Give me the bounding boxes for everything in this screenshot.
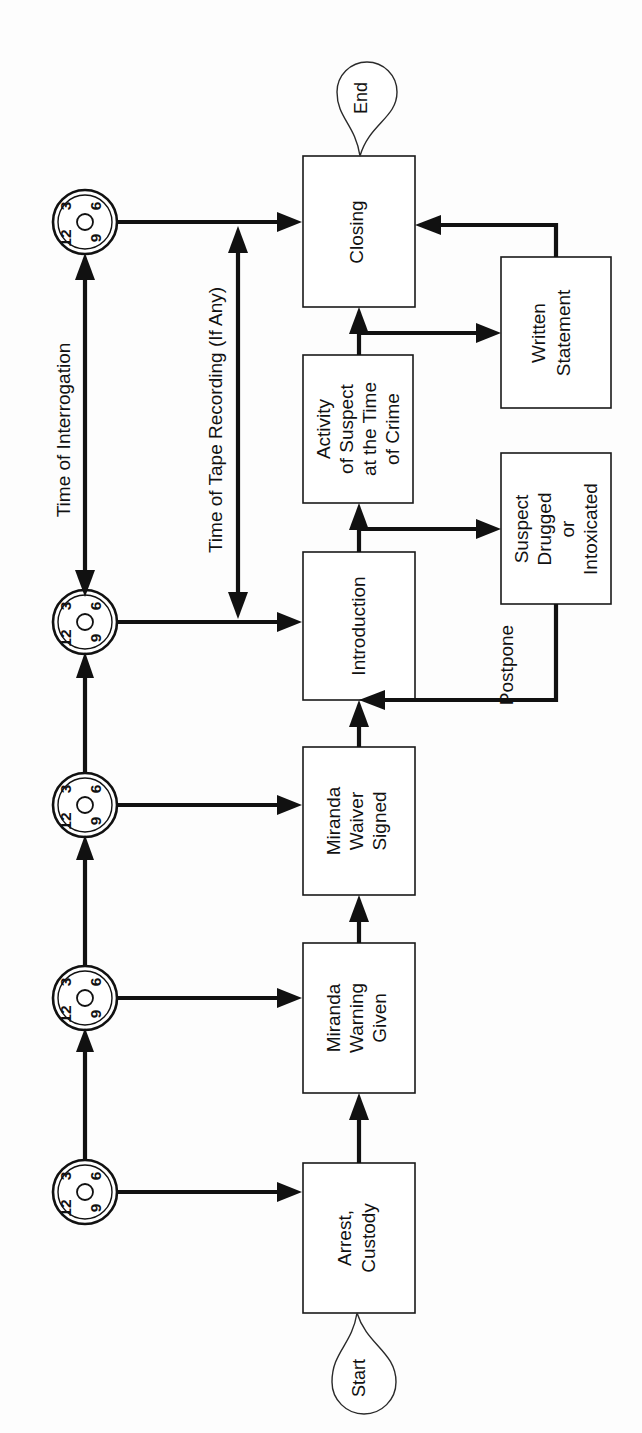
connector-clock5-to-closing	[117, 212, 302, 232]
clock-face-3-a: 3	[57, 1171, 74, 1180]
connector-introduction-to-suspect-drugged	[359, 519, 501, 539]
clock-face-3-b: 3	[57, 977, 74, 986]
connector-clock3-to-miranda-waiver	[117, 795, 302, 815]
terminator-start-label: Start	[349, 1359, 369, 1397]
connector-miranda-waiver-to-introduction	[349, 700, 369, 747]
node-activity-of-suspect[interactable]: Activity of Suspect at the Time of Crime	[303, 355, 413, 503]
clock-face-9-a: 9	[87, 1203, 104, 1212]
clock-face-9-d: 9	[87, 633, 104, 642]
clock-face-6-c: 6	[87, 784, 104, 793]
node-written-statement[interactable]: Written Statement	[501, 257, 611, 408]
node-miranda-waiver-signed[interactable]: Miranda Waiver Signed	[303, 747, 415, 895]
node-arrest-custody[interactable]: Arrest, Custody	[303, 1163, 415, 1313]
node-miranda-warning-given-line-2: Warning	[346, 983, 367, 1053]
clock-face-6-d: 6	[87, 601, 104, 610]
node-miranda-waiver-signed-line-2: Waiver	[346, 791, 367, 850]
connector-clock2-to-clock3	[76, 835, 94, 966]
node-miranda-warning-given-line-3: Given	[369, 993, 390, 1043]
node-suspect-drugged-line-3: or	[557, 520, 578, 538]
connector-time-of-tape-recording: Time of Tape Recording (If Any)	[205, 226, 248, 619]
node-written-statement-line-2: Statement	[553, 289, 574, 376]
clock-icon-introduction: 12 3 6 9	[53, 590, 117, 654]
node-miranda-waiver-signed-line-3: Signed	[369, 791, 390, 850]
node-suspect-drugged-line-1: Suspect	[511, 494, 532, 563]
node-miranda-warning-given-line-1: Miranda	[323, 983, 344, 1052]
node-written-statement-line-1: Written	[528, 303, 549, 363]
flowchart-svg: Arrest, Custody Miranda Warning Given Mi…	[0, 0, 642, 1433]
terminator-end: End	[337, 62, 397, 156]
clock-face-12-a: 12	[57, 1199, 74, 1216]
connector-miranda-warning-to-waiver	[349, 895, 369, 943]
node-closing-label: Closing	[346, 200, 367, 263]
connector-clock1-to-clock2	[76, 1028, 94, 1160]
connector-time-of-interrogation: Time of Interrogation	[53, 253, 95, 597]
node-activity-line-3: at the Time	[359, 382, 380, 476]
node-introduction-label: Introduction	[348, 576, 369, 675]
connector-arrest-to-miranda-warning	[349, 1093, 369, 1163]
clock-face-9-e: 9	[87, 233, 104, 242]
connector-activity-to-written-statement	[359, 323, 501, 343]
node-miranda-warning-given[interactable]: Miranda Warning Given	[303, 943, 415, 1093]
node-arrest-custody-line-2: Custody	[358, 1203, 379, 1273]
clock-face-3-e: 3	[57, 201, 74, 210]
clock-face-6-a: 6	[87, 1171, 104, 1180]
clock-face-12-e: 12	[57, 229, 74, 246]
terminator-end-label: End	[351, 82, 371, 114]
label-time-of-interrogation: Time of Interrogation	[53, 343, 74, 518]
clock-icon-closing: 12 3 6 9	[53, 190, 117, 254]
connector-written-statement-to-closing	[415, 215, 556, 257]
node-closing[interactable]: Closing	[303, 156, 415, 307]
connector-clock3-to-clock4	[76, 652, 94, 773]
node-miranda-waiver-signed-line-1: Miranda	[323, 786, 344, 855]
flowchart-canvas: Arrest, Custody Miranda Warning Given Mi…	[0, 0, 642, 1433]
connector-clock2-to-miranda-warning	[117, 988, 302, 1008]
node-arrest-custody-line-1: Arrest,	[334, 1210, 355, 1266]
node-activity-line-2: of Suspect	[336, 383, 357, 473]
connector-clock1-to-arrest	[117, 1182, 302, 1202]
node-suspect-drugged-line-2: Drugged	[534, 493, 555, 566]
clock-face-3-c: 3	[57, 784, 74, 793]
terminator-start: Start	[332, 1313, 396, 1414]
clock-face-9-c: 9	[87, 816, 104, 825]
node-activity-line-1: Activity	[313, 398, 334, 459]
connector-clock4-to-introduction	[117, 612, 302, 632]
node-suspect-drugged[interactable]: Suspect Drugged or Intoxicated	[501, 453, 611, 604]
label-time-of-tape-recording: Time of Tape Recording (If Any)	[205, 287, 226, 553]
clock-face-6-e: 6	[87, 201, 104, 210]
node-introduction[interactable]: Introduction	[303, 552, 415, 700]
clock-face-12-c: 12	[57, 812, 74, 829]
node-suspect-drugged-line-4: Intoxicated	[580, 483, 601, 575]
node-activity-line-4: of Crime	[382, 393, 403, 465]
clock-icon-arrest-custody: 12 3 6 9	[53, 1160, 117, 1224]
label-postpone: Postpone	[496, 625, 517, 705]
clock-face-12-d: 12	[57, 629, 74, 646]
clock-face-9-b: 9	[87, 1009, 104, 1018]
clock-face-12-b: 12	[57, 1005, 74, 1022]
clock-face-6-b: 6	[87, 977, 104, 986]
clock-icon-miranda-warning: 12 3 6 9	[53, 966, 117, 1030]
clock-icon-miranda-waiver: 12 3 6 9	[53, 773, 117, 837]
clock-face-3-d: 3	[57, 601, 74, 610]
